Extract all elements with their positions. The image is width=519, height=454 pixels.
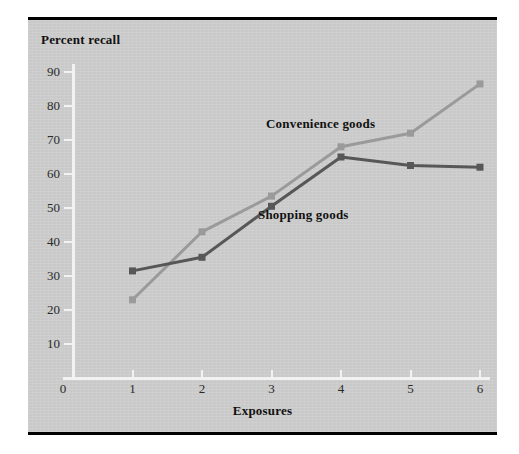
series-lines [28, 20, 497, 432]
series-label-convenience: Convenience goods [266, 116, 375, 132]
bottom-rule [28, 432, 497, 435]
data-point-marker [338, 143, 345, 150]
data-point-marker [407, 162, 414, 169]
data-point-marker [477, 164, 484, 171]
x-axis-title: Exposures [28, 403, 497, 419]
data-point-marker [199, 254, 206, 261]
data-point-marker [199, 228, 206, 235]
figure-container: Percent recall 102030405060708090 012345… [0, 0, 519, 454]
data-point-marker [477, 80, 484, 87]
plot-panel: Percent recall 102030405060708090 012345… [28, 20, 497, 432]
data-point-marker [129, 296, 136, 303]
series-label-shopping: Shopping goods [258, 207, 349, 223]
data-point-marker [407, 130, 414, 137]
data-point-marker [268, 193, 275, 200]
data-point-marker [338, 154, 345, 161]
data-point-marker [129, 267, 136, 274]
